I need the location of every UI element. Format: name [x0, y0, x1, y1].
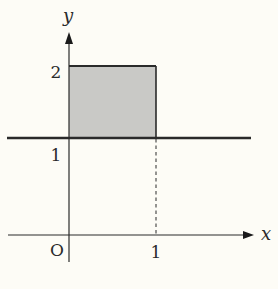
origin-label: O	[50, 240, 64, 260]
x-tick-label-1: 1	[151, 242, 162, 262]
y-axis-arrow-icon	[65, 32, 73, 44]
coordinate-diagram: y x 2 1 O 1	[0, 0, 278, 289]
x-axis-arrow-icon	[243, 231, 254, 239]
y-tick-label-2: 2	[51, 62, 62, 82]
shaded-region	[69, 66, 156, 138]
y-tick-label-1: 1	[51, 145, 62, 165]
x-axis-label: x	[261, 223, 271, 244]
y-axis-label: y	[62, 5, 74, 26]
